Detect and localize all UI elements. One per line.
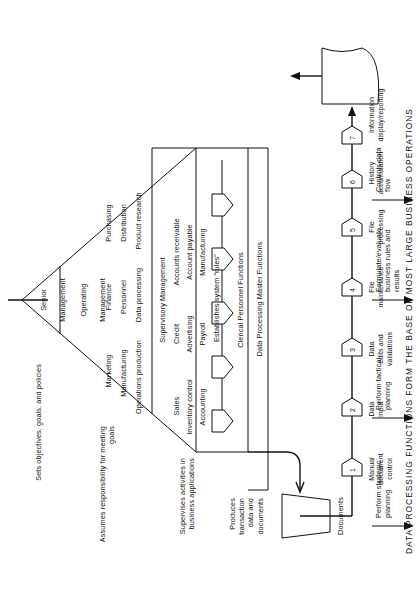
supervisory-function-account-payable: Account payable: [185, 204, 194, 300]
supervisory-function-advertising: Advertising: [185, 300, 194, 368]
operating-function-distribution: Distribution: [119, 186, 128, 260]
pyramid-level-operating-management: Operating Management: [70, 262, 107, 338]
arrow-note-perform-strategic-planning: Perform strategic planning: [374, 422, 392, 518]
flow-step-6-number: 6: [349, 175, 356, 189]
operating-function-marketing: Marketing: [104, 334, 113, 408]
operating-management-line1: Operating: [79, 284, 88, 317]
operating-function-operations-production: Operations production: [134, 332, 143, 422]
operating-function-product-research: Product research: [134, 182, 143, 260]
band-label-data-processing-master-functions: Data Processing Master Functions: [255, 204, 264, 394]
role-note-assumes-responsibility: Assumes responsibility for meeting goals: [98, 426, 116, 594]
senior-management-line2: Management: [58, 278, 67, 322]
supervisory-function-accounting: Accounting: [198, 368, 207, 446]
operating-function-finance: Finance: [104, 260, 113, 334]
flow-step-5-number: 5: [349, 223, 356, 237]
flow-step-2-number: 2: [349, 403, 356, 417]
supervisory-function-credit: Credit: [172, 300, 181, 368]
flow-step-3-number: 3: [349, 343, 356, 357]
operating-function-personnel: Personnel: [119, 260, 128, 334]
supervisory-function-accounts-receivable: Accounts receivable: [172, 204, 181, 300]
operating-function-purchasing: Purchasing: [104, 186, 113, 260]
figure-caption: DATA PROCESSING FUNCTIONS FORM THE BASE …: [404, 108, 414, 554]
role-note-supervises-activities: Supervises activities in business applic…: [178, 458, 196, 594]
flow-step-4-number: 4: [349, 283, 356, 297]
supervisory-function-manufacturing: Manufacturing: [198, 204, 207, 300]
supervisory-function-sales: Sales: [172, 368, 181, 444]
diagram-canvas: Senior Management Operating Management S…: [0, 0, 418, 600]
supervisory-system-rules-note: Establishes system “rules”: [212, 228, 221, 368]
rotated-figure-stage: Senior Management Operating Management S…: [0, 0, 418, 600]
supervisory-function-payroll: Payroll: [198, 300, 207, 368]
flow-source-documents-label: Documents: [336, 476, 345, 556]
pyramid-level-supervisory-management: Supervisory Management: [158, 250, 167, 350]
senior-management-line1: Senior: [39, 289, 48, 311]
arrow-note-perform-tactical-planning: Perform tactical planning: [374, 314, 392, 410]
operating-function-manufacturing: Manufacturing: [119, 334, 128, 412]
supervisory-function-inventory-control: Inventory control: [185, 364, 194, 450]
flow-step-1-number: 1: [349, 463, 356, 477]
arrow-note-formulate-evaluate-rules: Formulate/evaluate business rules and re…: [374, 188, 402, 292]
pyramid-level-senior-management: Senior Management: [30, 262, 67, 338]
arrow-note-controls-data-flow: Controls data flow: [374, 106, 392, 192]
role-note-sets-objectives: Sets objectives, goals, and policies: [34, 364, 43, 594]
band-label-clerical-personnel-functions: Clerical Personnel Functions: [236, 218, 245, 382]
role-note-produces-transaction-data: Produces transaction data and documents: [228, 498, 265, 594]
operating-function-data-processing: Data processing: [134, 258, 143, 332]
flow-step-7-number: 7: [349, 131, 356, 145]
